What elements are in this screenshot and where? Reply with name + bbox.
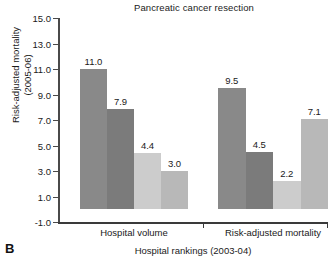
y-tick-label: 7.0 (38, 115, 51, 126)
bar: 9.5 (218, 88, 246, 209)
group-separator-tick (203, 222, 204, 228)
x-axis-baseline (58, 222, 328, 224)
y-tick-mark (53, 171, 58, 172)
panel-label: B (5, 241, 14, 256)
plot-area: 15.013.011.09.07.05.03.01.0-1.0 11.07.94… (58, 18, 328, 222)
group-label: Risk-adjusted mortality (218, 227, 328, 238)
bar-value-label: 7.9 (114, 96, 127, 107)
bar-value-label: 7.1 (308, 106, 321, 117)
bar: 11.0 (80, 69, 107, 209)
y-tick-mark (53, 146, 58, 147)
bar-value-label: 4.4 (141, 140, 154, 151)
bar: 2.2 (273, 181, 301, 209)
bar-value-label: 9.5 (225, 75, 238, 86)
y-tick-mark (53, 18, 58, 19)
bar: 4.4 (134, 153, 161, 209)
bar-value-label: 4.5 (253, 139, 266, 150)
x-axis-label: Hospital rankings (2003-04) (58, 245, 328, 256)
y-tick-label: 1.0 (38, 191, 51, 202)
y-tick-label: -1.0 (35, 217, 51, 228)
y-tick-label: 3.0 (38, 166, 51, 177)
bar: 7.9 (107, 109, 134, 210)
y-tick-mark (53, 120, 58, 121)
chart-container: Pancreatic cancer resection Risk-adjuste… (0, 0, 328, 264)
y-tick-mark (53, 222, 58, 223)
y-tick-mark (53, 95, 58, 96)
bar: 4.5 (246, 152, 274, 209)
y-axis-label-line1: Risk-adjusted mortality (10, 0, 22, 155)
y-tick-label: 15.0 (33, 13, 52, 24)
y-tick-mark (53, 69, 58, 70)
y-tick-label: 9.0 (38, 89, 51, 100)
group-label: Hospital volume (80, 227, 188, 238)
y-tick-label: 11.0 (33, 64, 51, 75)
bar-value-label: 11.0 (85, 56, 103, 67)
y-tick-mark (53, 197, 58, 198)
bar: 3.0 (161, 171, 188, 209)
bar: 7.1 (301, 119, 328, 210)
y-axis-line (58, 18, 60, 222)
y-tick-label: 13.0 (33, 38, 52, 49)
chart-title: Pancreatic cancer resection (60, 2, 328, 13)
y-tick-mark (53, 44, 58, 45)
bar-value-label: 3.0 (168, 158, 181, 169)
y-tick-label: 5.0 (38, 140, 51, 151)
bar-value-label: 2.2 (280, 168, 293, 179)
